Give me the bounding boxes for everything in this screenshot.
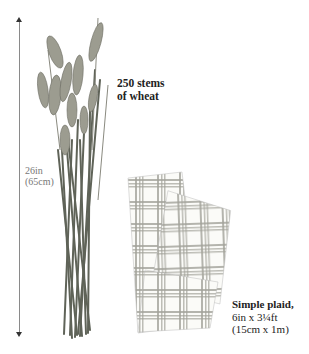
wheat-caption-line1: 250 stems	[117, 77, 165, 90]
wheat-caption: 250 stems of wheat	[117, 77, 165, 103]
height-measurement-line	[19, 21, 20, 334]
plaid-caption: Simple plaid, 6in x 3¼ft (15cm x 1m)	[232, 298, 294, 336]
wheat-caption-line2: of wheat	[117, 90, 165, 103]
height-dimension-label: 26in (65cm)	[25, 165, 54, 187]
plaid-caption-line3: (15cm x 1m)	[232, 323, 294, 336]
plaid-caption-line1: Simple plaid,	[232, 298, 294, 311]
arrow-down-icon	[16, 332, 22, 337]
arrow-up-icon	[16, 17, 22, 22]
height-centimeters: (65cm)	[25, 176, 54, 187]
plaid-caption-line2: 6in x 3¼ft	[232, 311, 294, 324]
height-inches: 26in	[25, 165, 54, 176]
